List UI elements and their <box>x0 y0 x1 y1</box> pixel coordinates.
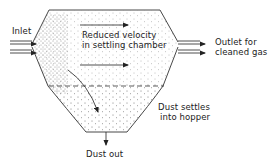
settling-chamber-diagram <box>0 0 272 164</box>
outlet-arrows <box>178 41 205 53</box>
outlet-label-line2: cleaned gas <box>215 48 267 58</box>
settle-label-line2: into hopper <box>160 113 210 123</box>
dust-out-label: Dust out <box>86 150 123 160</box>
velocity-label-line2: in settling chamber <box>82 41 167 51</box>
particle-fill <box>30 8 180 138</box>
inlet-label: Inlet <box>12 27 31 37</box>
